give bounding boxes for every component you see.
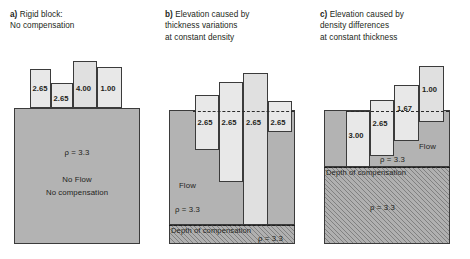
panel-b-flow-label: Flow	[179, 181, 196, 190]
panel-c-block-1-label: 3.00	[349, 131, 364, 140]
panel-b-airy-isostasy: b) Elevation caused by thickness variati…	[155, 0, 310, 259]
panel-a-no-compensation-label: No compensation	[14, 188, 140, 197]
panel-a-stage: 2.65 2.65 4.00 1.00 ρ = 3.3 No Flow No c…	[0, 0, 155, 259]
panel-a-block-3-label: 4.00	[76, 84, 91, 93]
panel-c-flow-label: Flow	[419, 142, 436, 151]
panel-b-block-3-label: 2.65	[246, 118, 261, 127]
panel-a-no-flow-label: No Flow	[14, 175, 140, 184]
panel-c-block-2-label: 2.65	[373, 119, 388, 128]
panel-b-block-1-label: 2.65	[198, 118, 213, 127]
panel-b-block-2-label: 2.65	[222, 118, 237, 127]
isostasy-figure: a) Rigid block: No compensation 2.65 2.6…	[0, 0, 470, 259]
panel-c-pratt-isostasy: c) Elevation caused by density differenc…	[310, 0, 465, 259]
panel-c-depth-of-compensation-label: Depth of compensation	[326, 168, 406, 177]
panel-b-block-4	[268, 101, 292, 132]
panel-b-block-3	[243, 73, 268, 225]
panel-b-stage: 2.65 2.65 2.65 2.65 Flow ρ = 3.3 Depth o…	[155, 0, 310, 259]
panel-c-block-4-label: 1.00	[422, 85, 437, 94]
panel-b-sea-level-line	[193, 111, 294, 112]
panel-c-deep-density-label: ρ = 3.3	[370, 203, 395, 212]
panel-c-block-3	[394, 85, 419, 141]
panel-a-block-2-label: 2.65	[54, 94, 69, 103]
panel-c-block-2	[370, 100, 394, 156]
panel-a-block-1-label: 2.65	[33, 84, 48, 93]
panel-b-deep-density-label: ρ = 3.3	[258, 234, 283, 243]
panel-a-rigid-block: a) Rigid block: No compensation 2.65 2.6…	[0, 0, 155, 259]
panel-a-density-label: ρ = 3.3	[14, 148, 140, 157]
panel-c-stage: 3.00 2.65 1.67 1.00 Flow ρ = 3.3 Depth o…	[310, 0, 465, 259]
panel-c-density-label: ρ = 3.3	[380, 155, 405, 164]
panel-a-block-4-label: 1.00	[101, 84, 116, 93]
panel-c-sea-level-line	[346, 111, 449, 112]
panel-b-density-label: ρ = 3.3	[175, 205, 200, 214]
panel-b-depth-of-compensation-label: Depth of compensation	[171, 226, 251, 235]
panel-b-block-4-label: 2.65	[271, 118, 286, 127]
panel-c-block-4	[419, 66, 444, 122]
panel-b-block-2	[219, 82, 243, 182]
